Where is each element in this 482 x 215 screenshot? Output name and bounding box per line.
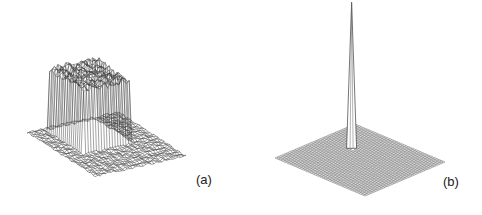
panel-label-a: (a): [196, 172, 212, 187]
panel-label-b: (b): [443, 174, 459, 189]
figure-b-spike-surface: (b): [241, 0, 482, 215]
figure-a-plateau-surface: (a): [0, 0, 241, 215]
